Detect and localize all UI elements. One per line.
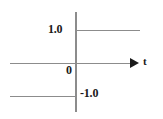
horizontal-time-axis: [10, 63, 134, 65]
upper-level-segment: [76, 30, 140, 32]
y-axis-label-upper: 1.0: [48, 23, 62, 35]
y-axis-label-lower: -1.0: [80, 87, 98, 99]
waveform-plot: 1.0 0 -1.0 t: [0, 0, 163, 119]
x-axis-label: t: [143, 56, 147, 67]
origin-label: 0: [66, 64, 72, 76]
arrow-right-icon: [130, 58, 139, 68]
lower-level-segment: [10, 96, 76, 98]
